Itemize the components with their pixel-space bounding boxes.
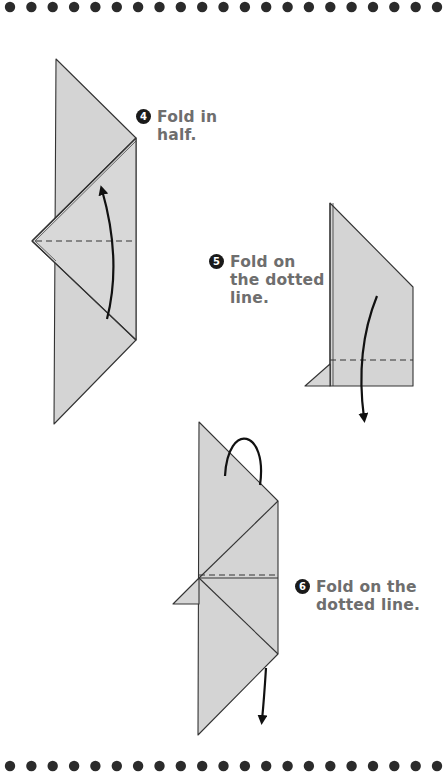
border-dot <box>176 761 186 771</box>
step-5-number-badge: 5 <box>209 254 224 269</box>
border-dot <box>48 761 58 771</box>
step-6-instruction: 6 Fold on the dotted line. <box>295 578 420 614</box>
step-6-number-badge: 6 <box>295 579 310 594</box>
step-4-number-badge: 4 <box>136 109 151 124</box>
border-dot <box>389 761 399 771</box>
step5-diagram <box>305 203 413 418</box>
border-dot <box>69 761 79 771</box>
border-dot <box>346 761 356 771</box>
step-5-instruction: 5 Fold on the dotted line. <box>209 253 325 307</box>
step4-diagram <box>32 59 136 424</box>
border-dot <box>90 761 100 771</box>
border-dot <box>325 761 335 771</box>
step-4-instruction: 4 Fold in half. <box>136 108 217 144</box>
border-dot <box>368 761 378 771</box>
border-dot <box>26 761 36 771</box>
step-6-text: Fold on the dotted line. <box>295 578 420 614</box>
border-dot <box>432 761 442 771</box>
border-dot <box>218 761 228 771</box>
border-dot <box>154 761 164 771</box>
border-dot <box>240 761 250 771</box>
border-dot <box>112 761 122 771</box>
border-dot <box>133 761 143 771</box>
border-dot <box>282 761 292 771</box>
border-dot <box>197 761 207 771</box>
border-dot <box>304 761 314 771</box>
step6-diagram <box>173 422 278 735</box>
step-5-text: Fold on the dotted line. <box>209 253 325 307</box>
border-dot <box>5 761 15 771</box>
border-dot <box>261 761 271 771</box>
border-dot <box>411 761 421 771</box>
origami-diagrams <box>0 0 447 775</box>
bottom-dot-border <box>0 759 447 773</box>
